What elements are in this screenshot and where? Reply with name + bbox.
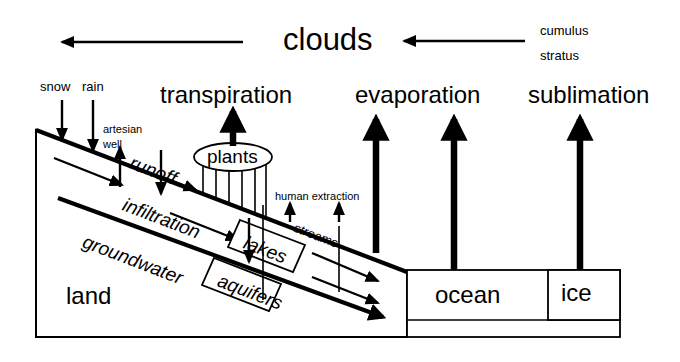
clouds-label: clouds (283, 22, 373, 57)
plants-label: plants (207, 146, 258, 167)
transpiration-label: transpiration (160, 81, 292, 108)
ice-label: ice (561, 279, 592, 306)
land-label: land (66, 282, 111, 309)
sublimation-label: sublimation (528, 81, 649, 108)
stratus-label: stratus (540, 48, 580, 63)
ocean-label: ocean (435, 281, 500, 308)
cumulus-label: cumulus (540, 23, 589, 38)
human-extraction-label: human extraction (275, 190, 359, 202)
water-cycle-diagram: clouds cumulus stratus snow rain transpi… (0, 0, 680, 362)
evaporation-label: evaporation (355, 81, 480, 108)
snow-label: snow (40, 79, 71, 94)
rain-label: rain (82, 79, 104, 94)
well-label: well (102, 138, 122, 150)
water-cycle-canvas: clouds cumulus stratus snow rain transpi… (0, 0, 680, 362)
artesian-label: artesian (103, 123, 142, 135)
